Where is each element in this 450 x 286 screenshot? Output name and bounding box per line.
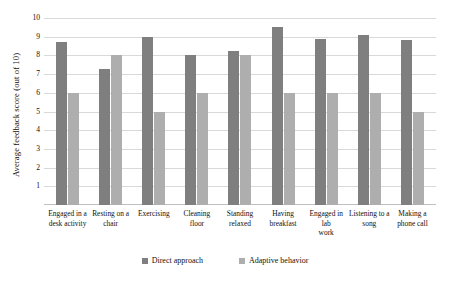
y-axis-tick-label: 7: [36, 70, 40, 78]
bar: [315, 39, 326, 205]
bar: [142, 37, 153, 205]
x-axis-category-label: Resting on achair: [89, 209, 132, 243]
legend: Direct approachAdaptive behavior: [0, 256, 450, 265]
x-axis-category-label: Cleaning floor: [175, 209, 218, 243]
bar-group: [348, 18, 391, 205]
bar: [413, 112, 424, 206]
x-axis-category-label: Engaged in labwork: [305, 209, 348, 243]
x-axis-label-line: phone call: [392, 219, 433, 229]
y-axis-tick-label: 10: [32, 14, 40, 22]
y-axis-tick-label: 6: [36, 89, 40, 97]
bar: [284, 93, 295, 205]
legend-label: Adaptive behavior: [249, 256, 308, 265]
x-axis-category-label: Making aphone call: [391, 209, 434, 243]
x-axis-label-line: Exercising: [133, 209, 174, 219]
bar-group: [262, 18, 305, 205]
bar: [228, 51, 239, 205]
y-axis-tick-label: 4: [36, 126, 40, 134]
legend-item[interactable]: Direct approach: [142, 256, 203, 265]
x-axis-label-line: Engaged in a: [47, 209, 88, 219]
legend-swatch-icon: [239, 258, 245, 264]
bar-group: [391, 18, 434, 205]
y-axis-tick-label: 8: [36, 52, 40, 60]
y-axis-tick-label: 1: [36, 183, 40, 191]
bar: [370, 93, 381, 205]
bar: [327, 93, 338, 205]
bar-group: [218, 18, 261, 205]
y-axis-tick-label: 3: [36, 145, 40, 153]
bar-group: [89, 18, 132, 205]
x-axis-label-line: chair: [90, 219, 131, 229]
x-axis-category-label: Havingbreakfast: [262, 209, 305, 243]
x-axis-label-line: Engaged in lab: [306, 209, 347, 228]
x-axis-label-line: Listening to a: [349, 209, 390, 219]
bar: [68, 93, 79, 205]
bar: [185, 55, 196, 205]
bar: [99, 69, 110, 206]
y-axis-tick-label: 2: [36, 164, 40, 172]
x-axis-label-line: Resting on a: [90, 209, 131, 219]
x-axis-label-line: work: [306, 228, 347, 238]
legend-item[interactable]: Adaptive behavior: [239, 256, 308, 265]
bar: [240, 55, 251, 205]
bar-group: [132, 18, 175, 205]
bar-group: [175, 18, 218, 205]
bar: [111, 55, 122, 205]
bar: [358, 35, 369, 205]
plot-area: [44, 18, 436, 205]
bar-groups: [44, 18, 436, 205]
y-axis-tick-label: 5: [36, 108, 40, 116]
legend-label: Direct approach: [152, 256, 203, 265]
bar: [272, 27, 283, 205]
x-axis-label-line: relaxed: [219, 219, 260, 229]
x-axis-category-label: Listening to asong: [348, 209, 391, 243]
x-axis-category-label: Engaged in adesk activity: [46, 209, 89, 243]
y-axis-tick-label: 9: [36, 33, 40, 41]
y-axis-title: Average feedback score (out of 10): [11, 15, 21, 215]
bar-group: [305, 18, 348, 205]
x-axis-label-line: Making a: [392, 209, 433, 219]
x-axis-label-line: Standing: [219, 209, 260, 219]
x-axis-category-label: Exercising: [132, 209, 175, 243]
y-axis-tick-labels: 10987654321: [26, 18, 40, 205]
bar: [197, 93, 208, 205]
bar: [401, 40, 412, 205]
x-axis-label-line: song: [349, 219, 390, 229]
x-axis-label-line: breakfast: [263, 219, 304, 229]
legend-swatch-icon: [142, 258, 148, 264]
x-axis-category-label: Standingrelaxed: [218, 209, 261, 243]
bar: [56, 42, 67, 205]
bar: [154, 112, 165, 206]
x-axis-category-labels: Engaged in adesk activityResting on acha…: [44, 209, 436, 243]
x-axis-label-line: Cleaning floor: [176, 209, 217, 228]
bar-chart: Average feedback score (out of 10) 10987…: [0, 0, 450, 286]
x-axis-label-line: Having: [263, 209, 304, 219]
bar-group: [46, 18, 89, 205]
x-axis-label-line: desk activity: [47, 219, 88, 229]
